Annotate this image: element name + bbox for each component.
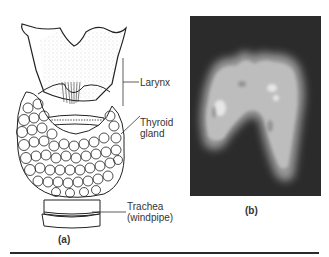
panel-b-caption: (b): [245, 205, 258, 216]
trachea-shape: [42, 200, 100, 228]
bottom-rule-divider: [10, 252, 319, 254]
thyroid-label-line1: Thyroid: [140, 117, 173, 128]
thyroid-scan-image: [190, 16, 321, 196]
panel-a-caption: (a): [58, 234, 70, 245]
scan-glow: [190, 16, 321, 196]
thyroid-gland-shape: [17, 92, 125, 198]
trachea-label-line2: (windpipe): [127, 212, 173, 223]
trachea-label-line1: Trachea: [127, 201, 163, 212]
thyroid-label-line2: gland: [140, 128, 164, 139]
larynx-label: Larynx: [140, 77, 170, 88]
